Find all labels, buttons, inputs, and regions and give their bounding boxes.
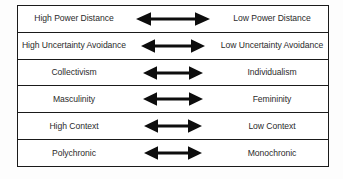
left-pole-cell: Collectivism bbox=[18, 68, 130, 77]
arrow-cell bbox=[130, 11, 216, 27]
left-pole-label: High Uncertainty Avoidance bbox=[22, 41, 126, 50]
right-pole-label: Low Uncertainty Avoidance bbox=[221, 41, 323, 50]
double-headed-arrow-icon bbox=[141, 38, 205, 54]
cultural-dimensions-table: High Power Distance Low Power Distance H… bbox=[17, 5, 329, 167]
arrow-cell bbox=[130, 145, 216, 161]
left-pole-label: Collectivism bbox=[51, 68, 96, 77]
left-pole-cell: Masculinity bbox=[18, 95, 130, 104]
right-pole-cell: Femininity bbox=[216, 95, 328, 104]
arrow-cell bbox=[130, 38, 216, 54]
right-pole-label: Low Power Distance bbox=[233, 14, 310, 23]
right-pole-label: Monochronic bbox=[248, 149, 297, 158]
double-headed-arrow-icon bbox=[136, 11, 210, 27]
left-pole-cell: High Power Distance bbox=[18, 14, 130, 23]
right-pole-cell: Low Uncertainty Avoidance bbox=[216, 41, 328, 50]
right-pole-label: Femininity bbox=[253, 95, 292, 104]
table-row: High Context Low Context bbox=[18, 113, 328, 140]
right-pole-label: Low Context bbox=[248, 122, 295, 131]
right-pole-cell: Low Context bbox=[216, 122, 328, 131]
table-row: Collectivism Individualism bbox=[18, 60, 328, 87]
table-row: Polychronic Monochronic bbox=[18, 140, 328, 166]
left-pole-cell: High Uncertainty Avoidance bbox=[18, 41, 130, 50]
left-pole-label: Polychronic bbox=[52, 149, 96, 158]
left-pole-label: Masculinity bbox=[53, 95, 95, 104]
table-row: High Power Distance Low Power Distance bbox=[18, 6, 328, 33]
left-pole-label: High Power Distance bbox=[34, 14, 113, 23]
double-headed-arrow-icon bbox=[143, 65, 203, 81]
right-pole-cell: Low Power Distance bbox=[216, 14, 328, 23]
arrow-cell bbox=[130, 118, 216, 134]
double-headed-arrow-icon bbox=[144, 145, 202, 161]
right-pole-label: Individualism bbox=[247, 68, 296, 77]
arrow-cell bbox=[130, 65, 216, 81]
left-pole-cell: Polychronic bbox=[18, 149, 130, 158]
double-headed-arrow-icon bbox=[144, 118, 202, 134]
diagram-canvas: High Power Distance Low Power Distance H… bbox=[0, 0, 343, 179]
table-row: High Uncertainty Avoidance Low Uncertain… bbox=[18, 33, 328, 60]
double-headed-arrow-icon bbox=[143, 91, 203, 107]
arrow-cell bbox=[130, 91, 216, 107]
left-pole-cell: High Context bbox=[18, 122, 130, 131]
left-pole-label: High Context bbox=[49, 122, 98, 131]
right-pole-cell: Individualism bbox=[216, 68, 328, 77]
table-row: Masculinity Femininity bbox=[18, 86, 328, 113]
right-pole-cell: Monochronic bbox=[216, 149, 328, 158]
